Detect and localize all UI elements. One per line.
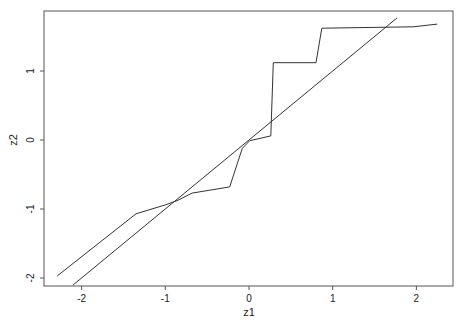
x-axis-label: z1 <box>243 306 255 318</box>
y-axis-label: z2 <box>7 134 19 146</box>
y-tick-label: 0 <box>25 137 36 143</box>
chart: -2-1012 -2-101 z1 z2 <box>0 0 462 331</box>
x-tick-label: 1 <box>330 293 336 304</box>
x-tick-label: -1 <box>161 293 170 304</box>
y-axis: -2-101 <box>25 68 44 283</box>
plot-frame <box>44 11 453 286</box>
x-tick-label: -2 <box>77 293 86 304</box>
x-tick-label: 0 <box>246 293 252 304</box>
y-tick-label: 1 <box>25 68 36 74</box>
x-axis: -2-1012 <box>77 286 419 304</box>
reference-line <box>73 18 397 285</box>
y-tick-label: -1 <box>25 204 36 213</box>
data-curve <box>57 24 437 276</box>
y-tick-label: -2 <box>25 273 36 282</box>
x-tick-label: 2 <box>414 293 420 304</box>
